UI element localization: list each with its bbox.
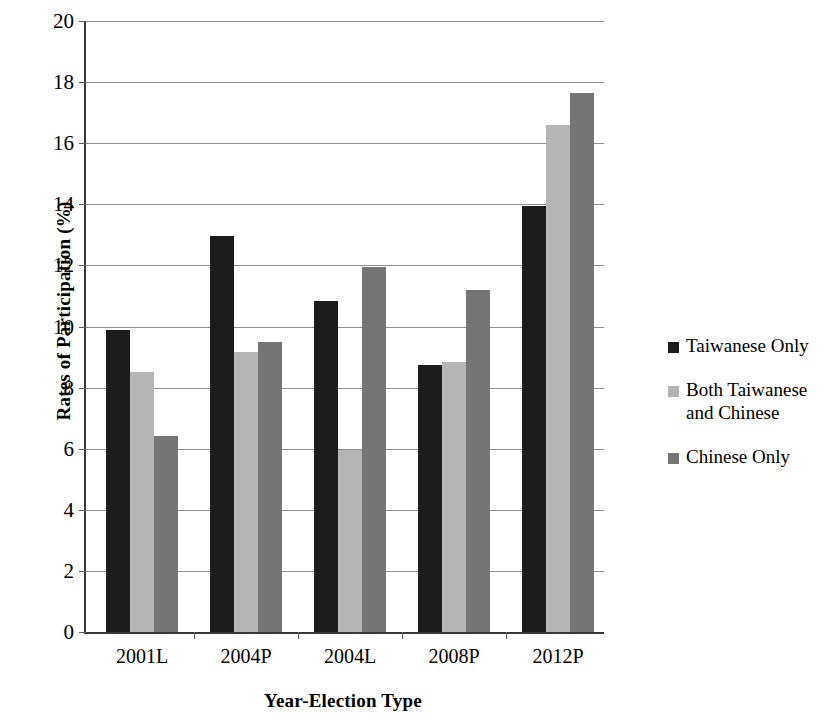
chart-legend: Taiwanese OnlyBoth Taiwanese and Chinese… xyxy=(668,335,836,491)
x-axis-tick-label: 2004P xyxy=(220,646,271,666)
x-axis-tick-label: 2001L xyxy=(116,646,168,666)
bar xyxy=(258,342,282,632)
legend-swatch-icon xyxy=(668,342,679,353)
bar xyxy=(522,206,546,632)
y-axis-tick-label: 14 xyxy=(53,194,74,215)
y-axis-tick-mark xyxy=(79,327,86,328)
x-axis-title: Year-Election Type xyxy=(84,690,602,712)
y-axis-tick-label: 10 xyxy=(53,316,74,337)
x-axis-tick-mark xyxy=(402,632,403,639)
y-axis-tick-mark xyxy=(79,82,86,83)
legend-label: Taiwanese Only xyxy=(686,335,809,357)
x-axis-tick-mark xyxy=(194,632,195,639)
y-axis-tick-mark xyxy=(79,388,86,389)
legend-item: Taiwanese Only xyxy=(668,335,836,357)
y-axis-tick-label: 8 xyxy=(64,377,75,398)
x-axis-tick-mark xyxy=(298,632,299,639)
plot-area: 024681012141618202001L2004P2004L2008P201… xyxy=(84,21,604,634)
y-axis-tick-label: 4 xyxy=(64,499,75,520)
bar xyxy=(418,365,442,632)
y-axis-tick-mark xyxy=(79,143,86,144)
legend-item: Both Taiwanese and Chinese xyxy=(668,379,836,424)
gridline xyxy=(86,143,604,144)
bar xyxy=(210,236,234,632)
y-axis-tick-mark xyxy=(79,449,86,450)
y-axis-tick-label: 6 xyxy=(64,438,75,459)
legend-swatch-icon xyxy=(668,386,679,397)
x-axis-tick-label: 2012P xyxy=(532,646,583,666)
y-axis-tick-mark xyxy=(79,510,86,511)
x-axis-tick-label: 2004L xyxy=(324,646,376,666)
x-axis-tick-mark xyxy=(506,632,507,639)
legend-item: Chinese Only xyxy=(668,446,836,468)
bar xyxy=(570,93,594,632)
legend-swatch-icon xyxy=(668,453,679,464)
y-axis-tick-label: 12 xyxy=(53,255,74,276)
y-axis-tick-mark xyxy=(79,204,86,205)
bar xyxy=(154,436,178,632)
legend-label: Chinese Only xyxy=(686,446,790,468)
bar xyxy=(546,125,570,632)
y-axis-tick-mark xyxy=(79,21,86,22)
bar xyxy=(442,362,466,632)
bar xyxy=(130,372,154,632)
y-axis-tick-label: 18 xyxy=(53,72,74,93)
bar xyxy=(106,330,130,632)
y-axis-tick-mark xyxy=(79,632,86,633)
bar xyxy=(362,267,386,632)
y-axis-tick-label: 16 xyxy=(53,133,74,154)
y-axis-tick-label: 0 xyxy=(64,622,75,643)
y-axis-tick-mark xyxy=(79,571,86,572)
bar xyxy=(314,301,338,632)
y-axis-tick-label: 20 xyxy=(53,11,74,32)
y-axis-tick-mark xyxy=(79,265,86,266)
gridline xyxy=(86,21,604,22)
bar xyxy=(234,352,258,632)
y-axis-tick-label: 2 xyxy=(64,560,75,581)
bar xyxy=(466,290,490,632)
x-axis-tick-label: 2008P xyxy=(428,646,479,666)
legend-label: Both Taiwanese and Chinese xyxy=(686,379,807,424)
bar xyxy=(338,450,362,632)
gridline xyxy=(86,82,604,83)
bar-chart-figure: Rates of Participation (%) 0246810121416… xyxy=(0,0,838,728)
